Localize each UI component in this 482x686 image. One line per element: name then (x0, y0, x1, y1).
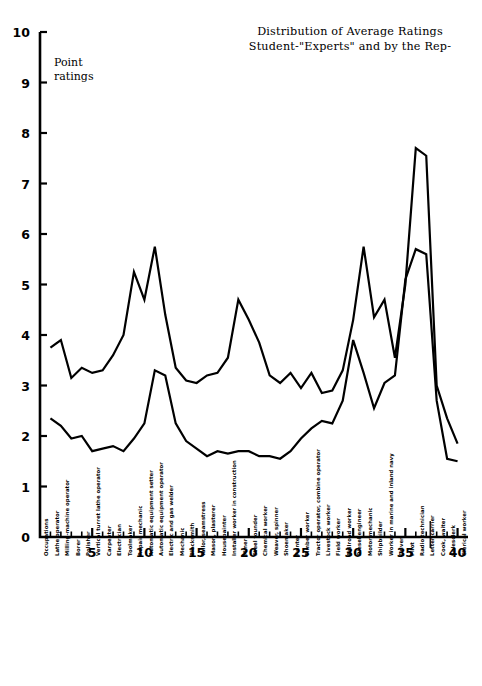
occupation-label: Clerical worker (461, 510, 467, 556)
occupation-label: Toolmaker (127, 525, 133, 556)
occupation-label: Borer (75, 539, 81, 556)
occupation-label: Repair mechanic (137, 506, 143, 556)
occupation-label: Carpenter (106, 526, 112, 556)
occupation-label: Automatic equipment setter (148, 470, 154, 556)
occupation-label: Printer (294, 535, 300, 556)
occupation-label: Steel founder (252, 515, 258, 556)
occupation-label: Miner (242, 539, 248, 556)
occupation-label: Tractor operator, combine operator (315, 449, 321, 556)
occupation-label: Diesel engineer (356, 509, 362, 557)
occupation-label: Chemical worker (262, 506, 268, 556)
occupation-label: Milling-machine operator (64, 479, 70, 556)
occupation-label: Cook, waiter (440, 518, 446, 556)
occupation-label: Blacksmith (189, 523, 195, 556)
occupation-label: Field worker (335, 518, 341, 556)
occupation-label: Installer worker in construction (231, 460, 237, 556)
occupation-label: Mechanic (179, 528, 185, 556)
occupation-label: Livestock worker (325, 504, 331, 556)
occupation-label: Lathe operator (54, 511, 60, 556)
occupation-label: Worker in marine and inland navy (388, 453, 394, 556)
occupation-label: Salesclerk (450, 525, 456, 556)
occupation-label: Motor mechanic (367, 507, 373, 556)
occupation-label: Automatic equipment operator (158, 462, 164, 556)
occupation-label: Letter carrier (429, 515, 435, 556)
chart-canvas: Distribution of Average Ratings Student-… (0, 0, 482, 686)
occupation-label: Timber worker (304, 512, 310, 556)
occupation-label: Tailor, seamstress (200, 502, 206, 556)
occupation-label: Electric and gas welder (168, 485, 174, 556)
occupation-label: Mason, plasterer (210, 505, 216, 556)
occupation-label: Driver (398, 537, 404, 556)
occupation-label: Occupations (43, 519, 49, 556)
occupation-label: Shoemaker (283, 522, 289, 556)
occupation-labels: OccupationsLathe operatorMilling-machine… (0, 0, 482, 686)
occupation-label: Railroad worker (346, 508, 352, 556)
occupation-label: Shipbuilder (377, 521, 383, 556)
occupation-label: Weaver, spinner (273, 507, 279, 556)
occupation-label: Pilot (409, 542, 415, 556)
occupation-label: Vertical turret lathe operator (95, 467, 101, 556)
occupation-label: Housepainter (221, 515, 227, 556)
occupation-label: Electrician (116, 524, 122, 556)
occupation-label: Polisher (85, 531, 91, 556)
occupation-label: Radio technician (419, 506, 425, 556)
